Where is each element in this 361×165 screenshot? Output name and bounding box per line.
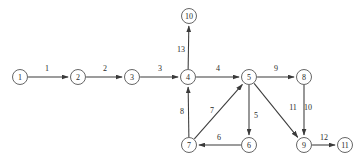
- edge-7-to-4: [188, 87, 189, 137]
- edge-weight-label-3-4: 3: [158, 64, 162, 73]
- edge-weight-label-5-9: 11: [289, 103, 297, 112]
- node-11[interactable]: 11: [338, 138, 353, 153]
- node-2[interactable]: 2: [71, 70, 86, 85]
- nodes-layer: 1234567891011: [13, 9, 353, 153]
- node-label-6: 6: [247, 141, 251, 150]
- edge-weight-label-8-9: 10: [304, 103, 312, 112]
- node-label-11: 11: [341, 141, 349, 150]
- edge-weight-label-5-6: 5: [254, 111, 258, 120]
- node-7[interactable]: 7: [182, 138, 197, 153]
- node-10[interactable]: 10: [182, 9, 197, 24]
- edge-weight-label-1-2: 1: [45, 64, 49, 73]
- edge-weight-label-6-7: 6: [217, 133, 221, 142]
- node-9[interactable]: 9: [297, 138, 312, 153]
- node-label-9: 9: [302, 141, 306, 150]
- graph-svg: 12349138756111012 1234567891011: [0, 0, 361, 165]
- node-label-4: 4: [186, 73, 190, 82]
- edge-7-to-5: [194, 84, 242, 139]
- node-label-8: 8: [302, 73, 306, 82]
- edge-weight-label-7-5: 7: [210, 106, 214, 115]
- diagram-canvas: 12349138756111012 1234567891011: [0, 0, 361, 165]
- edge-4-to-10: [188, 26, 189, 69]
- node-5[interactable]: 5: [242, 70, 257, 85]
- node-label-5: 5: [247, 73, 251, 82]
- node-1[interactable]: 1: [13, 70, 28, 85]
- edge-weight-label-4-10: 13: [177, 45, 185, 54]
- edge-labels-layer: 12349138756111012: [45, 45, 328, 142]
- edge-weight-label-9-11: 12: [320, 133, 328, 142]
- edge-weight-label-4-5: 4: [216, 64, 220, 73]
- edge-weight-label-2-3: 2: [103, 64, 107, 73]
- node-6[interactable]: 6: [242, 138, 257, 153]
- edge-weight-label-7-4: 8: [180, 107, 184, 116]
- node-4[interactable]: 4: [181, 70, 196, 85]
- edge-weight-label-5-8: 9: [274, 64, 278, 73]
- node-3[interactable]: 3: [125, 70, 140, 85]
- node-label-3: 3: [130, 73, 134, 82]
- node-label-1: 1: [18, 73, 22, 82]
- node-label-2: 2: [76, 73, 80, 82]
- node-8[interactable]: 8: [297, 70, 312, 85]
- node-label-10: 10: [185, 12, 193, 21]
- node-label-7: 7: [187, 141, 191, 150]
